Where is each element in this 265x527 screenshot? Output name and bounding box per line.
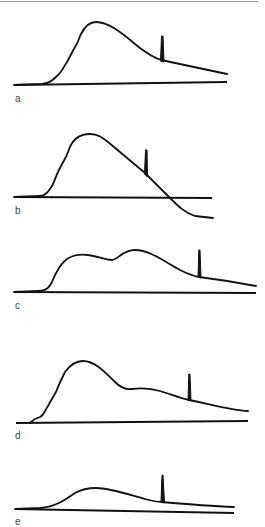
panel-e bbox=[15, 475, 234, 513]
trace-d bbox=[30, 361, 248, 423]
baseline-d bbox=[16, 421, 248, 423]
panel-b bbox=[14, 134, 213, 218]
baseline-b bbox=[14, 197, 212, 198]
panel-label-d: d bbox=[15, 431, 21, 441]
baseline-c bbox=[14, 292, 256, 293]
spike-d bbox=[188, 374, 191, 401]
trace-e bbox=[15, 488, 234, 509]
spike-e bbox=[161, 475, 165, 503]
baseline-e bbox=[15, 509, 234, 513]
panel-a bbox=[14, 22, 227, 85]
panel-label-b: b bbox=[15, 206, 21, 216]
spike-b bbox=[145, 150, 148, 177]
panel-label-c: c bbox=[15, 301, 20, 311]
panel-c bbox=[14, 250, 256, 293]
trace-c bbox=[14, 250, 256, 292]
spike-a bbox=[161, 36, 165, 62]
spike-c bbox=[198, 250, 201, 278]
panel-label-a: a bbox=[15, 94, 21, 104]
panel-label-e: e bbox=[15, 517, 21, 527]
trace-b bbox=[14, 134, 213, 218]
panel-d bbox=[16, 361, 248, 423]
trace-a bbox=[14, 22, 227, 85]
